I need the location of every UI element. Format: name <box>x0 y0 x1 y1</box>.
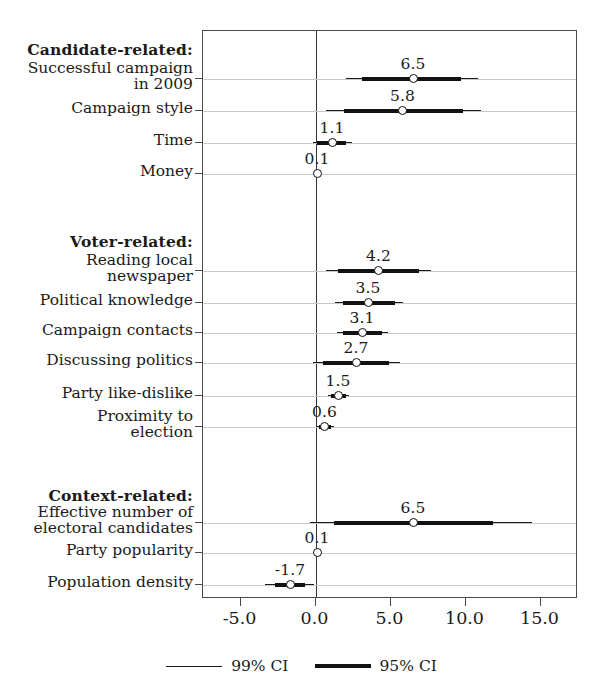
y-axis-tick <box>195 332 202 333</box>
y-axis-tick <box>195 584 202 585</box>
y-axis-tick <box>195 173 202 174</box>
x-axis-tick-label: 5.0 <box>376 608 404 628</box>
x-axis-tick-label: 10.0 <box>445 608 484 628</box>
estimate-value-label: 0.6 <box>312 403 337 421</box>
y-axis-tick <box>195 552 202 553</box>
y-axis-tick <box>195 270 202 271</box>
x-axis-tick <box>540 598 541 606</box>
point-estimate-marker <box>352 358 361 367</box>
y-axis-label: Party popularity <box>0 542 193 559</box>
gridline <box>203 143 576 144</box>
legend-label: 95% CI <box>380 657 437 675</box>
coefficient-plot-figure: 6.55.81.10.14.23.53.12.71.50.66.50.1-1.7… <box>0 0 603 695</box>
y-axis-label: Party like-dislike <box>0 385 193 402</box>
y-axis-label: Money <box>0 163 193 180</box>
y-axis-tick <box>195 362 202 363</box>
gridline <box>203 174 576 175</box>
estimate-value-label: 1.5 <box>326 372 351 390</box>
legend-swatch-ci95 <box>315 664 371 668</box>
point-estimate-marker <box>398 106 407 115</box>
point-estimate-marker <box>320 422 329 431</box>
estimate-value-label: 5.8 <box>390 87 415 105</box>
estimate-value-label: 3.1 <box>350 309 375 327</box>
x-axis-tick-label: 15.0 <box>520 608 559 628</box>
y-axis-tick <box>195 395 202 396</box>
point-estimate-marker <box>374 266 383 275</box>
legend-item: 95% CI <box>315 657 437 675</box>
legend-swatch-ci99 <box>166 666 222 667</box>
point-estimate-marker <box>364 298 373 307</box>
y-axis-tick <box>195 78 202 79</box>
y-axis-label: Successful campaign in 2009 <box>0 60 193 93</box>
group-header-label: Candidate-related: <box>0 42 193 59</box>
gridline <box>203 396 576 397</box>
gridline <box>203 333 576 334</box>
gridline <box>203 363 576 364</box>
point-estimate-marker <box>313 548 322 557</box>
estimate-value-label: 4.2 <box>366 247 391 265</box>
y-axis-label: Political knowledge <box>0 292 193 309</box>
estimate-value-label: 3.5 <box>356 279 381 297</box>
y-axis-label: Discussing politics <box>0 352 193 369</box>
point-estimate-marker <box>409 518 418 527</box>
y-axis-tick <box>195 302 202 303</box>
y-axis-label: Population density <box>0 574 193 591</box>
x-axis-tick <box>390 598 391 606</box>
x-axis-tick <box>315 598 316 606</box>
y-axis-label: Reading local newspaper <box>0 252 193 285</box>
y-axis-tick <box>195 142 202 143</box>
y-axis-tick <box>195 522 202 523</box>
estimate-value-label: 6.5 <box>401 55 426 73</box>
y-axis-label: Campaign style <box>0 100 193 117</box>
x-axis-tick <box>240 598 241 606</box>
plot-area: 6.55.81.10.14.23.53.12.71.50.66.50.1-1.7 <box>202 30 577 598</box>
estimate-value-label: -1.7 <box>275 561 305 579</box>
estimate-value-label: 1.1 <box>320 119 345 137</box>
point-estimate-marker <box>313 169 322 178</box>
estimate-value-label: 0.1 <box>305 529 330 547</box>
estimate-value-label: 0.1 <box>305 150 330 168</box>
y-axis-label: Campaign contacts <box>0 322 193 339</box>
gridline <box>203 427 576 428</box>
estimate-value-label: 6.5 <box>401 499 426 517</box>
point-estimate-marker <box>409 74 418 83</box>
x-axis-tick <box>465 598 466 606</box>
y-axis-label: Proximity to election <box>0 408 193 441</box>
legend-item: 99% CI <box>166 657 288 675</box>
point-estimate-marker <box>334 391 343 400</box>
y-axis-tick <box>195 426 202 427</box>
x-axis-tick-label: 0.0 <box>301 608 329 628</box>
point-estimate-marker <box>286 580 295 589</box>
y-axis-tick <box>195 110 202 111</box>
y-axis-label: Effective number of electoral candidates <box>0 504 193 537</box>
group-header-label: Context-related: <box>0 488 193 505</box>
group-header-label: Voter-related: <box>0 234 193 251</box>
estimate-value-label: 2.7 <box>344 339 369 357</box>
legend: 99% CI95% CI <box>0 657 603 675</box>
y-axis-label: Time <box>0 132 193 149</box>
gridline <box>203 585 576 586</box>
point-estimate-marker <box>358 328 367 337</box>
point-estimate-marker <box>328 138 337 147</box>
x-axis-tick-label: -5.0 <box>223 608 257 628</box>
gridline <box>203 553 576 554</box>
legend-label: 99% CI <box>231 657 288 675</box>
zero-reference-line <box>316 31 317 597</box>
